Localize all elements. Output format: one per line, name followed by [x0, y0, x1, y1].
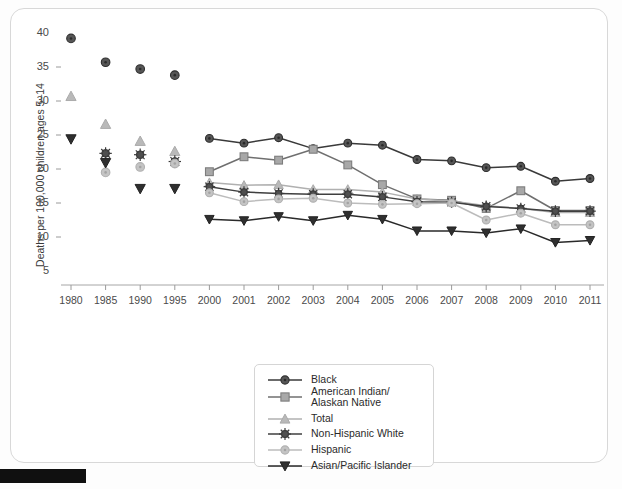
series-black: [67, 34, 594, 185]
marker-square: [206, 168, 214, 176]
legend-item[interactable]: American Indian/Alaskan Native: [265, 390, 390, 404]
y-axis-tick-label: 15: [23, 196, 49, 208]
series-asian-pacific-islander: [66, 135, 595, 247]
chart-figure: Deaths per 100,000 children ages 5–14 Bl…: [0, 0, 622, 489]
legend-label-line2: Alaskan Native: [311, 397, 390, 409]
y-axis-tick-label: 5: [23, 264, 49, 276]
marker-circle-dot: [70, 37, 73, 40]
series-line: [209, 215, 590, 242]
chart-panel: Deaths per 100,000 children ages 5–14 Bl…: [10, 8, 608, 463]
marker-circle-light-dot: [208, 192, 211, 195]
marker-circle-dot: [208, 137, 211, 140]
marker-circle-light-dot: [520, 212, 523, 215]
series-line: [209, 187, 590, 211]
marker-triangle-up: [101, 119, 111, 128]
marker-square: [309, 145, 317, 153]
marker-triangle-down: [101, 159, 111, 168]
marker-square: [281, 393, 289, 401]
marker-circle-light-dot: [174, 162, 177, 165]
legend-item[interactable]: Non-Hispanic White: [265, 427, 404, 441]
chart-legend: BlackAmerican Indian/Alaskan NativeTotal…: [254, 364, 434, 467]
legend-key-icon: [265, 459, 305, 473]
marker-circle-dot: [174, 74, 177, 77]
marker-circle-light-dot: [450, 202, 453, 205]
marker-circle-dot: [450, 160, 453, 163]
marker-circle-light-dot: [554, 223, 557, 226]
marker-circle-dot: [284, 379, 287, 382]
y-axis-tick-label: 25: [23, 128, 49, 140]
marker-triangle-down: [309, 217, 318, 226]
marker-circle-dot: [104, 61, 107, 64]
legend-label: Total: [311, 413, 333, 425]
legend-key-icon: [265, 443, 305, 457]
legend-key-icon: [265, 373, 305, 387]
marker-circle-dot: [381, 144, 384, 147]
marker-circle-dot: [416, 158, 419, 161]
y-axis-tick-label: 35: [23, 60, 49, 72]
series-line: [209, 149, 590, 210]
marker-square: [344, 161, 352, 169]
marker-circle-light-dot: [312, 197, 315, 200]
marker-circle-light-dot: [381, 203, 384, 206]
marker-circle-dot: [243, 142, 246, 145]
marker-circle-light-dot: [104, 171, 107, 174]
marker-triangle-down: [135, 184, 145, 193]
legend-key-icon: [265, 390, 305, 404]
y-axis-tick-label: 40: [23, 26, 49, 38]
marker-circle-dot: [589, 177, 592, 180]
legend-item[interactable]: Asian/Pacific Islander: [265, 459, 411, 473]
marker-circle-light-dot: [416, 202, 419, 205]
marker-circle-dot: [139, 68, 142, 71]
series-total: [66, 91, 595, 216]
marker-square: [517, 187, 525, 195]
y-axis-tick-label: 10: [23, 230, 49, 242]
marker-circle-light-dot: [589, 223, 592, 226]
marker-circle-light-dot: [277, 198, 280, 201]
legend-key-icon: [265, 412, 305, 426]
legend-item[interactable]: Total: [265, 412, 333, 426]
marker-circle-dot: [520, 165, 523, 168]
legend-item[interactable]: Hispanic: [265, 443, 351, 457]
legend-label: American Indian/Alaskan Native: [311, 386, 390, 409]
y-axis-tick-label: 20: [23, 162, 49, 174]
marker-triangle-down: [66, 135, 76, 144]
marker-triangle-down: [170, 184, 180, 193]
marker-triangle-up: [170, 146, 180, 155]
marker-circle-light-dot: [347, 202, 350, 205]
marker-circle-light-dot: [243, 200, 246, 203]
marker-circle-dot: [277, 136, 280, 139]
marker-square: [240, 153, 248, 161]
legend-label: Non-Hispanic White: [311, 428, 404, 440]
marker-circle-light-dot: [485, 219, 488, 222]
marker-triangle-up: [66, 91, 76, 100]
x-axis-tick-label: 2011: [567, 294, 613, 306]
bottom-edge-artifact: [0, 469, 86, 483]
marker-square: [275, 156, 283, 164]
legend-key-icon: [265, 427, 305, 441]
marker-circle-dot: [554, 180, 557, 183]
y-axis-tick-label: 30: [23, 94, 49, 106]
legend-label: Hispanic: [311, 444, 351, 456]
marker-circle-dot: [485, 166, 488, 169]
legend-label: Asian/Pacific Islander: [311, 460, 411, 472]
marker-circle-dot: [347, 142, 350, 145]
marker-triangle-up: [135, 136, 145, 145]
marker-circle-light-dot: [284, 449, 287, 452]
marker-circle-light-dot: [139, 166, 142, 169]
